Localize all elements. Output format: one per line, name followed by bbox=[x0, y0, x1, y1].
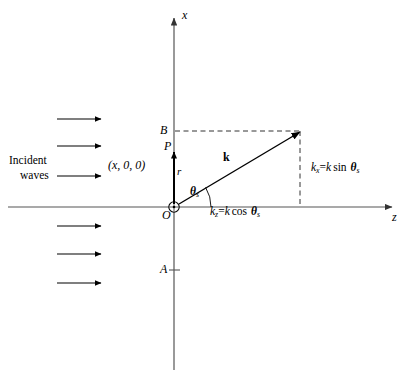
point-p-label: P bbox=[164, 140, 171, 152]
point-p-coordinates: (x, 0, 0) bbox=[108, 159, 145, 171]
k-vector-label: k bbox=[223, 151, 230, 163]
kz-rhs-function: cos bbox=[232, 205, 247, 217]
incident-waves-label-line2: waves bbox=[20, 170, 49, 182]
point-b-label: B bbox=[160, 124, 167, 136]
x-axis-label: x bbox=[182, 9, 187, 21]
kz-rhs-theta-subscript: s bbox=[257, 210, 260, 219]
kx-rhs-k: k bbox=[326, 161, 331, 173]
kx-rhs-function: sin bbox=[333, 161, 346, 173]
kz-component-label: kz=kcosθs bbox=[210, 206, 260, 219]
angle-theta-label: θs bbox=[190, 186, 199, 199]
point-a-label: A bbox=[160, 263, 167, 275]
kx-component-label: kx=ksinθs bbox=[311, 162, 360, 175]
kx-rhs-theta-subscript: s bbox=[357, 166, 360, 175]
axis-group bbox=[8, 18, 392, 370]
r-vector-label: r bbox=[177, 166, 181, 177]
origin-label: O bbox=[162, 209, 171, 221]
z-axis-label: z bbox=[392, 211, 397, 223]
diagram-canvas bbox=[0, 0, 414, 383]
incident-waves-label-line1: Incident bbox=[9, 155, 47, 167]
incident-wave-arrows bbox=[57, 119, 101, 283]
wave-vector-diagram: x z O Incident waves P (x, 0, 0) r A B k… bbox=[0, 0, 414, 383]
angle-theta-subscript: s bbox=[196, 190, 199, 199]
kz-rhs-k: k bbox=[225, 205, 230, 217]
